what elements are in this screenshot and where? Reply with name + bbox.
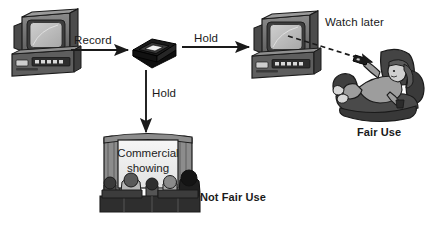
cinema-screen-text-line2: showing (110, 161, 186, 176)
home-viewer-illustration (333, 49, 424, 121)
source-tv-vcr-illustration (12, 9, 81, 76)
verdict-label-fair-use: Fair Use (357, 127, 401, 138)
arrow-label-record: Record (74, 35, 112, 47)
playback-tv-vcr-illustration (252, 11, 321, 78)
diagram-illustration-layer (0, 0, 438, 243)
verdict-label-not-fair-use: Not Fair Use (200, 192, 266, 203)
arrow-label-hold-horizontal: Hold (194, 33, 218, 45)
vhs-cassette-illustration (133, 39, 176, 68)
arrow-label-hold-vertical: Hold (152, 88, 176, 100)
arrow-label-watch-later: Watch later (325, 17, 384, 29)
cinema-screen-text-line1: Commercial (110, 146, 186, 161)
cinema-screen-text: Commercial showing (110, 146, 186, 175)
diagram-canvas: Record Hold Hold Watch later Fair Use No… (0, 0, 438, 243)
